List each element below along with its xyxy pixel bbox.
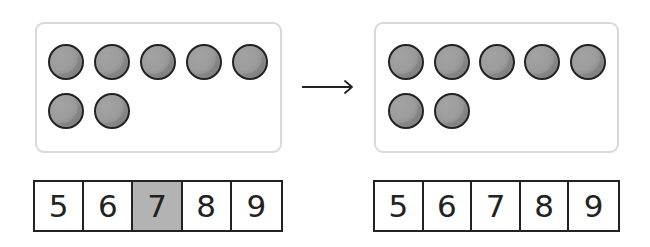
- counter-dot: [434, 93, 470, 129]
- counter-dot: [232, 44, 268, 80]
- number-cell[interactable]: 8: [521, 182, 570, 230]
- left-number-strip: 5 6 7 8 9: [33, 180, 283, 232]
- number-cell[interactable]: 5: [375, 182, 424, 230]
- counter-dot: [388, 93, 424, 129]
- counter-dot: [94, 44, 130, 80]
- number-cell[interactable]: 7: [472, 182, 521, 230]
- number-cell[interactable]: 6: [424, 182, 473, 230]
- counter-dot: [524, 44, 560, 80]
- right-number-strip: 5 6 7 8 9: [373, 180, 620, 232]
- number-cell[interactable]: 9: [569, 182, 618, 230]
- number-cell-highlighted[interactable]: 7: [133, 182, 182, 230]
- counter-dot: [140, 44, 176, 80]
- left-counters-box: [35, 22, 282, 153]
- counter-dot: [48, 93, 84, 129]
- counter-dot: [94, 93, 130, 129]
- counter-dot: [479, 44, 515, 80]
- number-cell[interactable]: 5: [35, 182, 84, 230]
- counter-dot: [570, 44, 606, 80]
- right-counters-box: [374, 22, 619, 153]
- number-cell[interactable]: 9: [232, 182, 281, 230]
- counter-dot: [388, 44, 424, 80]
- counter-dot: [434, 44, 470, 80]
- counter-dot: [186, 44, 222, 80]
- number-cell[interactable]: 6: [84, 182, 133, 230]
- arrow-right-icon: [301, 79, 355, 95]
- counter-dot: [48, 44, 84, 80]
- number-cell[interactable]: 8: [183, 182, 232, 230]
